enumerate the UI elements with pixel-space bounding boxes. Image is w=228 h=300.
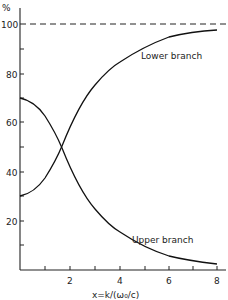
upper-branch-label: Upper branch	[132, 235, 193, 245]
x-tick-6: 6	[166, 276, 172, 286]
y-tick-60: 60	[6, 118, 18, 128]
lower-branch-label: Lower branch	[141, 51, 202, 61]
x-axis-title: x=k/(ω₀/c)	[92, 290, 139, 300]
y-tick-100: 100	[1, 20, 18, 30]
y-unit-label: %	[2, 3, 11, 13]
x-ticks	[45, 266, 217, 270]
chart: % 100 80 60 40 20 2 4 6 8 x=k/(ω₀/c) Low…	[0, 0, 228, 300]
y-tick-20: 20	[6, 217, 18, 227]
x-tick-2: 2	[67, 276, 73, 286]
y-tick-80: 80	[6, 70, 18, 80]
x-tick-4: 4	[117, 276, 123, 286]
y-ticks	[20, 49, 24, 245]
x-tick-8: 8	[214, 276, 220, 286]
y-tick-40: 40	[6, 168, 18, 178]
